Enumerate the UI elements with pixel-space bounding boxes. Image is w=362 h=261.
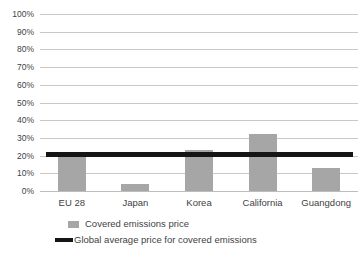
y-axis-tick-label: 80% — [17, 45, 34, 54]
legend-item-global-average-price: Global average price for covered emissio… — [0, 232, 362, 248]
global-average-line — [46, 152, 353, 157]
x-axis-tick-label: Guangdong — [301, 196, 351, 210]
legend-label: Covered emissions price — [85, 218, 189, 230]
y-axis-tick-label: 30% — [17, 133, 34, 142]
x-axis: EU 28JapanKoreaCaliforniaGuangdong — [40, 196, 358, 214]
y-axis-tick-label: 20% — [17, 151, 34, 160]
bar-slot — [231, 14, 295, 191]
y-axis-tick-label: 90% — [17, 27, 34, 36]
x-axis-tick-label: Japan — [122, 196, 148, 210]
bars-layer — [40, 14, 358, 191]
plot-area — [40, 14, 358, 191]
bar-slot — [40, 14, 104, 191]
x-axis-tick-label: California — [243, 196, 283, 210]
y-axis-tick-label: 0% — [22, 187, 34, 196]
chart-legend: Covered emissions price Global average p… — [0, 216, 362, 248]
bar-swatch-icon — [68, 221, 79, 228]
y-axis-tick-label: 40% — [17, 116, 34, 125]
y-axis-tick-label: 70% — [17, 63, 34, 72]
bar — [312, 168, 340, 191]
bar-slot — [167, 14, 231, 191]
x-axis-tick-label: Korea — [186, 196, 211, 210]
plot-wrapper: 0%10%20%30%40%50%60%70%80%90%100% EU 28J… — [0, 0, 362, 200]
bar-slot — [294, 14, 358, 191]
y-axis-tick-label: 10% — [17, 169, 34, 178]
line-swatch-icon — [55, 238, 73, 242]
legend-item-covered-emissions-price: Covered emissions price — [0, 216, 362, 232]
axis-baseline — [40, 191, 358, 192]
bar — [58, 157, 86, 191]
bar — [249, 134, 277, 191]
x-axis-tick-label: EU 28 — [59, 196, 85, 210]
legend-label: Global average price for covered emissio… — [74, 234, 257, 246]
bar — [121, 184, 149, 191]
chart-container: 0%10%20%30%40%50%60%70%80%90%100% EU 28J… — [0, 0, 362, 261]
y-axis-tick-label: 100% — [12, 10, 34, 19]
y-axis: 0%10%20%30%40%50%60%70%80%90%100% — [0, 0, 36, 200]
y-axis-tick-label: 60% — [17, 80, 34, 89]
y-axis-tick-label: 50% — [17, 98, 34, 107]
bar-slot — [104, 14, 168, 191]
